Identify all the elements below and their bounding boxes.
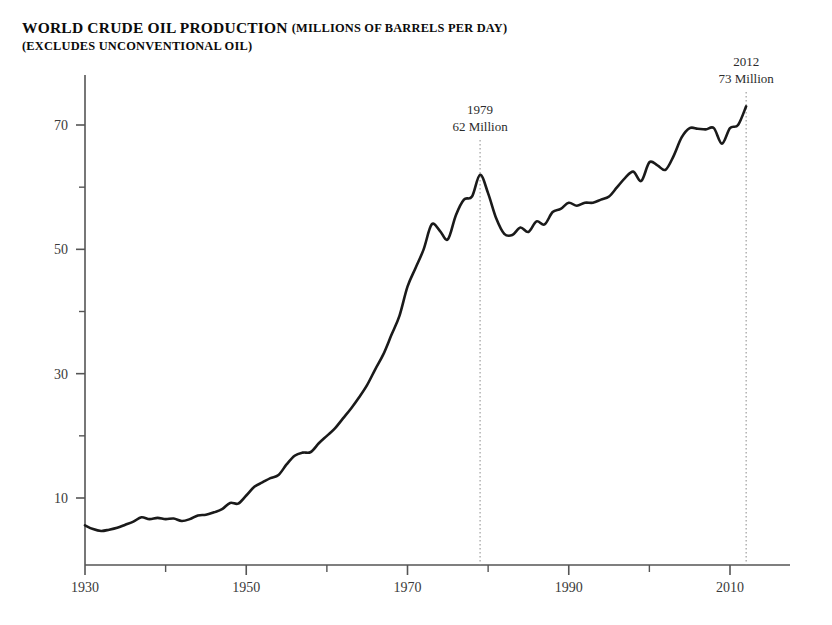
y-axis-tick-label: 50: [54, 242, 68, 257]
annotation-rule-group: [480, 92, 746, 565]
x-axis-tick-label: 1970: [394, 580, 422, 595]
annotation-1979-year: 1979: [420, 102, 540, 119]
annotation-2012-year: 2012: [686, 54, 806, 71]
x-axis-tick-label: 1930: [71, 580, 99, 595]
tick-label-group: 1030507019301950197019902010: [54, 118, 744, 595]
chart-plot-area: 1030507019301950197019902010: [0, 0, 832, 625]
y-axis-tick-label: 10: [54, 491, 68, 506]
tick-group: [76, 125, 730, 575]
x-axis-tick-label: 1990: [555, 580, 583, 595]
line-chart-svg: 1030507019301950197019902010: [0, 0, 832, 625]
axis-group: [85, 75, 790, 565]
annotation-2012: 2012 73 Million: [686, 54, 806, 87]
data-line-world-crude-oil-production: [85, 106, 746, 531]
annotation-1979-value: 62 Million: [420, 119, 540, 136]
annotation-1979: 1979 62 Million: [420, 102, 540, 135]
x-axis-tick-label: 2010: [716, 580, 744, 595]
chart-page: WORLD CRUDE OIL PRODUCTION(MILLIONS OF B…: [0, 0, 832, 625]
y-axis-tick-label: 70: [54, 118, 68, 133]
annotation-2012-value: 73 Million: [686, 71, 806, 88]
x-axis-tick-label: 1950: [232, 580, 260, 595]
y-axis-tick-label: 30: [54, 367, 68, 382]
